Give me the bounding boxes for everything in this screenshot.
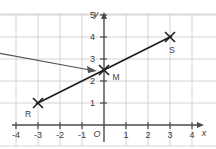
graph-canvas: y x O -4 -3 -2 -1 1 2 3 4 1 2 3 4 5: [0, 0, 216, 149]
y-tick-label-1: 1: [90, 98, 95, 108]
x-tick-label--3: -3: [34, 130, 42, 140]
y-tick-label-3: 3: [90, 54, 95, 64]
point-label-s: S: [169, 45, 175, 55]
point-label-m: M: [112, 72, 119, 82]
annotation-arrow: [0, 53, 97, 73]
x-tick-label-1: 1: [123, 130, 128, 140]
point-label-r: R: [25, 109, 31, 119]
x-tick-label--4: -4: [12, 130, 20, 140]
x-tick-label-2: 2: [145, 130, 150, 140]
origin-label: O: [93, 129, 100, 139]
coordinate-plane-figure: y x O -4 -3 -2 -1 1 2 3 4 1 2 3 4 5: [0, 0, 216, 149]
grid-lines: [0, 14, 216, 146]
x-tick-label--1: -1: [78, 130, 86, 140]
y-tick-label-5: 5: [90, 10, 95, 20]
x-tick-label--2: -2: [56, 130, 64, 140]
x-tick-label-3: 3: [167, 130, 172, 140]
x-tick-label-4: 4: [189, 130, 194, 140]
y-tick-label-4: 4: [90, 32, 95, 42]
x-axis-label: x: [201, 128, 207, 138]
